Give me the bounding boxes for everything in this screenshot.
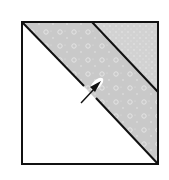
quilt-block-diagram (0, 0, 169, 180)
